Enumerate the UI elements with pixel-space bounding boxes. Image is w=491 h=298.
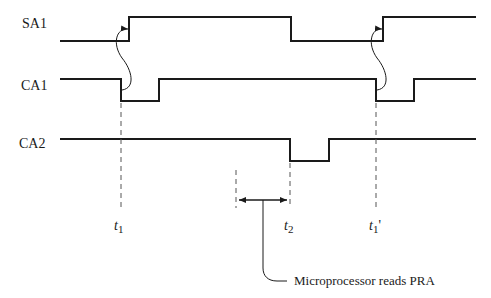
sa1-waveform [60, 17, 476, 41]
time-label-t1-prime-mark: ' [378, 218, 381, 233]
signal-label-ca1: CA1 [21, 78, 47, 94]
time-label-t1: t1 [114, 218, 123, 235]
ca2-waveform [60, 139, 476, 161]
signal-label-ca2: CA2 [19, 136, 45, 152]
signal-label-sa1: SA1 [22, 16, 47, 32]
time-label-t2-sub: 2 [288, 223, 294, 235]
annotation-microprocessor-reads-pra: Microprocessor reads PRA [294, 273, 435, 289]
time-label-t2: t2 [284, 218, 293, 235]
timing-diagram-canvas [0, 0, 491, 298]
time-label-t1-prime: t1' [369, 218, 381, 235]
annotation-leader-line [263, 200, 287, 281]
time-label-t1-sub: 1 [118, 223, 124, 235]
